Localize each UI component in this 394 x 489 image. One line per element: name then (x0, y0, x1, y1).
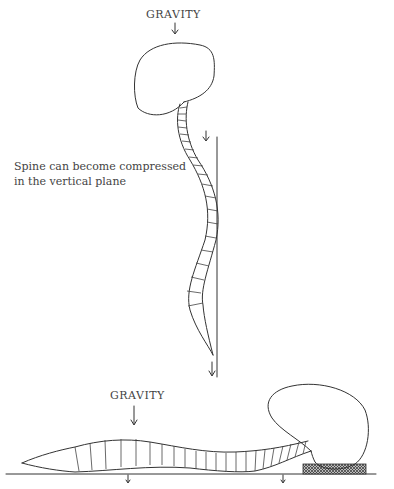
gravity-arrow-icon-top (172, 23, 178, 34)
gravity-arrow-icon-ground-right (281, 475, 285, 483)
head-lying (268, 384, 368, 469)
spine-upright (177, 102, 218, 355)
gravity-arrow-icon-neck (203, 131, 209, 141)
gravity-arrow-icon-tail (209, 362, 215, 376)
caption-line-1: Spine can become compressed (14, 160, 186, 173)
head-upright (134, 43, 214, 115)
spine-lying (22, 439, 311, 472)
gravity-label-bottom: GRAVITY (110, 389, 165, 402)
caption-line-2: in the vertical plane (14, 175, 126, 188)
gravity-arrow-icon-ground-left (126, 475, 130, 483)
spine-diagram (0, 0, 394, 489)
gravity-label-top: GRAVITY (146, 8, 201, 21)
gravity-arrow-icon-bottom (131, 406, 137, 425)
